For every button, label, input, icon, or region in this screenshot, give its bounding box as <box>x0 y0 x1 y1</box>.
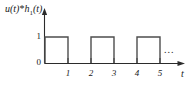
x-tick-label-1: 1 <box>62 69 74 78</box>
waveform-pulse-train <box>45 37 160 63</box>
signal-plot-figure: u(t)*h1(t) 1 0 1 2 3 4 5 ... t <box>0 0 195 90</box>
x-tick-label-3: 3 <box>108 69 120 78</box>
y-axis-label-h-argument: (t) <box>33 3 42 14</box>
y-axis-arrowhead <box>42 8 47 15</box>
pulse-1 <box>45 37 68 63</box>
x-tick-label-4: 4 <box>131 69 143 78</box>
y-tick-label-1: 1 <box>31 32 41 41</box>
x-tick-label-2: 2 <box>85 69 97 78</box>
pulse-3 <box>137 37 160 63</box>
x-axis <box>45 61 186 66</box>
y-axis-label: u(t)*h1(t) <box>5 4 42 17</box>
x-tick-label-5: 5 <box>154 69 166 78</box>
pulse-2 <box>91 37 114 63</box>
x-axis-label: t <box>181 69 184 79</box>
y-tick-label-0: 0 <box>31 58 41 67</box>
continuation-ellipsis: ... <box>164 45 175 55</box>
y-axis-label-u: u(t) <box>5 3 19 14</box>
x-axis-arrowhead <box>178 61 186 66</box>
